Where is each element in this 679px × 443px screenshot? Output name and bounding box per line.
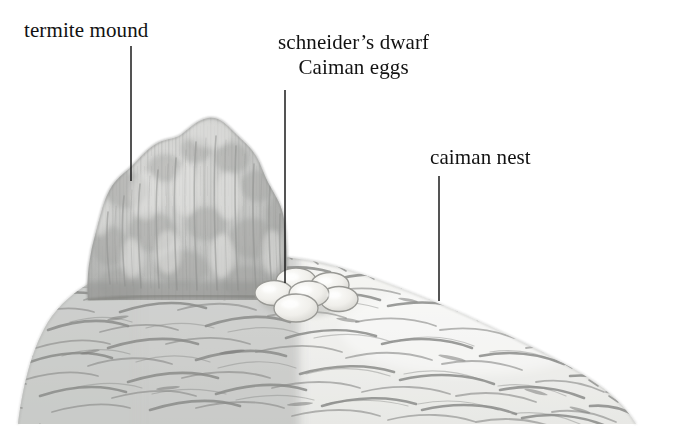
egg [274,294,318,322]
termite-mound [80,110,295,310]
label-caiman-eggs-line2: Caiman eggs [278,55,429,80]
nest-bottom-fringe [34,424,608,437]
label-caiman-eggs: schneider’s dwarf Caiman eggs [278,30,429,80]
label-caiman-nest: caiman nest [430,145,531,170]
label-caiman-eggs-line1: schneider’s dwarf [278,30,429,55]
label-termite-mound: termite mound [24,18,148,43]
mound-texture [80,110,295,310]
caiman-nest-illustration: termite mound schneider’s dwarf Caiman e… [0,0,679,443]
